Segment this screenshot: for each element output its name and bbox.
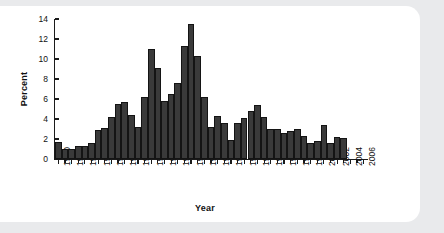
bar	[174, 83, 181, 159]
y-tick-label: 14	[22, 14, 48, 24]
bar	[128, 115, 135, 159]
bar	[148, 49, 155, 159]
bar-chart-figure: Percent Year 02468101214 196019621964196…	[0, 0, 444, 233]
bar	[108, 117, 115, 159]
bar	[141, 97, 148, 159]
y-tick-label: 6	[22, 94, 48, 104]
bar	[62, 149, 69, 159]
bar	[194, 56, 201, 159]
y-tick-label: 12	[22, 34, 48, 44]
bar	[294, 129, 301, 159]
bar	[274, 129, 281, 159]
bar	[221, 123, 228, 159]
bar	[181, 46, 188, 159]
bar	[201, 97, 208, 159]
bar	[241, 118, 248, 159]
bar	[68, 149, 75, 159]
bar	[208, 127, 215, 159]
y-tick-label: 4	[22, 114, 48, 124]
bar	[301, 136, 308, 159]
bar	[82, 146, 89, 159]
bar	[101, 128, 108, 159]
bar	[340, 138, 347, 159]
bar	[321, 125, 328, 159]
bar	[287, 131, 294, 159]
bar	[161, 101, 168, 159]
bar	[254, 105, 261, 159]
bar	[75, 146, 82, 159]
bar	[115, 104, 122, 159]
bar	[261, 117, 268, 159]
bar	[327, 143, 334, 159]
bar	[281, 133, 288, 159]
bar	[135, 127, 142, 159]
y-tick-label: 10	[22, 54, 48, 64]
bar	[267, 129, 274, 159]
bar	[55, 142, 62, 159]
plot-area	[55, 19, 367, 159]
x-tick-mark	[58, 160, 59, 164]
bar	[121, 102, 128, 159]
bar	[314, 141, 321, 159]
bar	[95, 130, 102, 159]
bar	[334, 137, 341, 159]
bar	[228, 140, 235, 159]
bar	[234, 123, 241, 159]
bar	[188, 24, 195, 159]
bar	[88, 143, 95, 159]
y-tick-label: 0	[22, 154, 48, 164]
x-tick-label: 2006	[367, 147, 377, 166]
bar	[248, 111, 255, 159]
bar	[307, 143, 314, 159]
bar	[168, 94, 175, 159]
bar	[214, 116, 221, 159]
y-tick-label: 2	[22, 134, 48, 144]
bar	[155, 68, 162, 159]
y-tick-label: 8	[22, 74, 48, 84]
x-axis-label: Year	[40, 203, 370, 213]
